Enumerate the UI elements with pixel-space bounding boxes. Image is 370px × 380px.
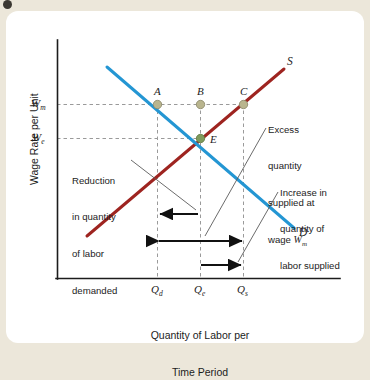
annotation-reduction-demanded-line4: demanded bbox=[72, 285, 117, 297]
marker-points bbox=[153, 100, 247, 142]
marker-point-a bbox=[153, 100, 161, 108]
y-tick-label-wm: Wm bbox=[31, 97, 46, 113]
leader-reduction-demanded bbox=[131, 160, 196, 210]
annotation-reduction-demanded-line1: Reduction bbox=[72, 175, 117, 187]
marker-point-e bbox=[196, 134, 204, 142]
y-tick-label-we: We bbox=[32, 131, 45, 147]
marker-point-b bbox=[196, 100, 204, 108]
annotation-increase-supplied-line3: labor supplied bbox=[280, 260, 340, 272]
point-label-a: A bbox=[154, 85, 161, 98]
annotation-reduction-demanded-line3: of labor bbox=[72, 248, 117, 260]
x-tick-label-qs: Qs bbox=[237, 283, 248, 299]
annotation-reduction-demanded: Reduction in quantity of labor demanded bbox=[72, 150, 117, 322]
annotation-excess-supplied-line1: Excess bbox=[268, 124, 314, 136]
x-axis-title-line2: Time Period bbox=[120, 366, 280, 378]
annotation-increase-supplied-line2: quantity of bbox=[280, 223, 340, 235]
x-axis-title: Quantity of Labor per Time Period bbox=[120, 304, 280, 380]
point-label-b: B bbox=[197, 85, 204, 98]
annotation-increase-supplied-line1: Increase in bbox=[280, 187, 340, 199]
annotation-reduction-demanded-line2: in quantity bbox=[72, 211, 117, 223]
curve-label-supply: S bbox=[287, 55, 293, 69]
x-axis-title-line1: Quantity of Labor per bbox=[120, 329, 280, 341]
x-tick-label-qe: Qe bbox=[194, 283, 205, 299]
point-label-e: E bbox=[210, 133, 217, 146]
point-label-c: C bbox=[240, 85, 247, 98]
x-tick-label-qd: Qd bbox=[151, 283, 163, 299]
marker-point-c bbox=[239, 100, 247, 108]
annotation-increase-supplied: Increase in quantity of labor supplied bbox=[280, 162, 340, 297]
